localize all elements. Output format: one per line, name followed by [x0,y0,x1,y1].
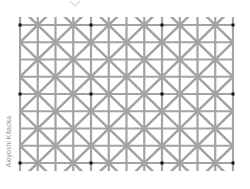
black-dot [90,24,93,27]
grid-lines [0,0,250,189]
black-dot [232,93,235,96]
black-dot [232,162,235,165]
black-dot [161,93,164,96]
black-dot [19,93,22,96]
black-dot [19,24,22,27]
illusion-figure [0,0,250,189]
black-dot [19,162,22,165]
black-dot [161,162,164,165]
black-dot [90,93,93,96]
black-dot [161,24,164,27]
black-dot [90,162,93,165]
black-dot [232,24,235,27]
author-credit: Akiyoshi Kitaoka [5,112,12,172]
